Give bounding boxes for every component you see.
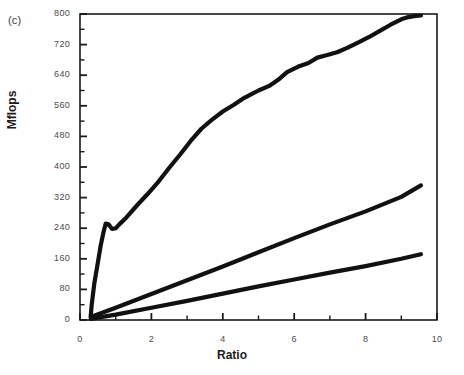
y-axis-tick-label: 400 xyxy=(36,161,70,171)
y-axis-tick-label: 480 xyxy=(36,130,70,140)
series-line-middle-line xyxy=(91,185,421,317)
x-axis-tick-label: 6 xyxy=(282,334,306,344)
y-axis-tick-label: 0 xyxy=(36,314,70,324)
x-axis-tick-label: 2 xyxy=(139,334,163,344)
series-line-bottom-line xyxy=(91,254,421,319)
series-line-top-curve xyxy=(91,16,421,317)
chart-figure: (c) Mflops Ratio 08016024032040048056064… xyxy=(0,0,464,375)
y-axis-tick-label: 800 xyxy=(36,8,70,18)
y-axis-tick-label: 560 xyxy=(36,100,70,110)
x-axis-tick-label: 10 xyxy=(425,334,449,344)
y-axis-tick-label: 720 xyxy=(36,39,70,49)
y-axis-tick-label: 640 xyxy=(36,69,70,79)
y-axis-tick-label: 240 xyxy=(36,222,70,232)
y-axis-tick-label: 320 xyxy=(36,192,70,202)
x-axis-tick-label: 4 xyxy=(211,334,235,344)
panel-label: (c) xyxy=(8,14,21,26)
y-axis-tick-label: 80 xyxy=(36,283,70,293)
x-axis-tick-label: 8 xyxy=(354,334,378,344)
x-axis-title: Ratio xyxy=(0,348,464,362)
y-axis-tick-label: 160 xyxy=(36,253,70,263)
x-axis-tick-label: 0 xyxy=(68,334,92,344)
y-axis-title: Mflops xyxy=(5,70,19,150)
plot-frame xyxy=(80,14,437,320)
